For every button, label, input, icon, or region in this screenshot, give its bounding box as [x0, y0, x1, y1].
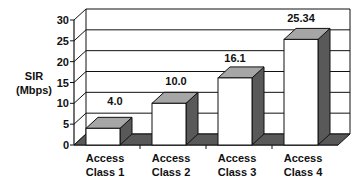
- bar-1: 4.0: [86, 95, 132, 145]
- gridline-diagonal: [74, 92, 86, 103]
- bar-front: [218, 78, 252, 145]
- x-tick-label: Access: [284, 152, 323, 164]
- gridline-diagonal: [74, 51, 86, 62]
- y-axis-title-line: (Mbps): [16, 84, 52, 96]
- bar-front: [86, 128, 120, 145]
- y-tick-label: 5: [63, 118, 69, 130]
- y-axis-title: SIR(Mbps): [16, 70, 52, 96]
- x-tick-label: Access: [218, 152, 257, 164]
- y-tick-label: 0: [63, 139, 69, 151]
- y-axis-title-line: SIR: [25, 70, 43, 82]
- y-tick-label: 20: [57, 56, 69, 68]
- bar-3: 16.1: [218, 52, 264, 145]
- bar-2: 10.0: [152, 75, 198, 145]
- data-label: 25.34: [287, 12, 315, 24]
- gridline-diagonal: [74, 72, 86, 83]
- x-axis-labels: AccessClass 1AccessClass 2AccessClass 3A…: [86, 145, 323, 178]
- bar-4: 25.34: [282, 12, 331, 145]
- bar-front: [284, 39, 318, 145]
- y-tick-label: 30: [57, 14, 69, 26]
- y-tick-label: 15: [57, 77, 69, 89]
- x-tick-label: Access: [86, 152, 125, 164]
- bar-side: [318, 28, 330, 145]
- y-tick-label: 10: [57, 97, 69, 109]
- bar-side: [252, 67, 264, 145]
- gridline-diagonal: [74, 9, 86, 20]
- y-tick-label: 25: [57, 35, 69, 47]
- gridline-diagonal: [74, 113, 86, 124]
- data-label: 10.0: [165, 75, 186, 87]
- bar-chart: 051015202530 4.010.016.125.34 AccessClas…: [0, 0, 353, 188]
- data-label: 4.0: [107, 95, 122, 107]
- x-tick-label: Class 1: [86, 166, 125, 178]
- gridline-diagonal: [74, 30, 86, 41]
- x-tick-label: Access: [152, 152, 191, 164]
- data-label: 16.1: [224, 52, 245, 64]
- x-tick-label: Class 3: [218, 166, 257, 178]
- bar-front: [152, 103, 186, 145]
- x-tick-label: Class 2: [152, 166, 191, 178]
- x-tick-label: Class 4: [284, 166, 323, 178]
- bars: 4.010.016.125.34: [86, 12, 330, 145]
